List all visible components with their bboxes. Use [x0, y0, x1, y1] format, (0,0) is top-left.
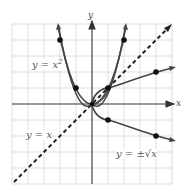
parabola-label-text: y = x — [32, 59, 58, 70]
y-axis-label: y — [88, 11, 93, 20]
parabola-label: y = x2 — [32, 59, 63, 70]
sqrt-lower-curve — [92, 104, 172, 140]
function-graph — [0, 0, 183, 192]
sqrt-upper-arrow-icon — [169, 66, 176, 71]
y-axis-arrow-icon — [89, 21, 95, 29]
sqrt-label: y = ±√x — [116, 149, 157, 159]
identity-label: y = x — [26, 130, 52, 140]
x-axis-arrow-icon — [166, 101, 174, 107]
sqrt-upper-curve — [92, 68, 172, 104]
sqrt-lower-arrow-icon — [169, 137, 176, 142]
x-axis-label: x — [176, 99, 181, 108]
parabola-label-exponent: 2 — [58, 58, 62, 66]
